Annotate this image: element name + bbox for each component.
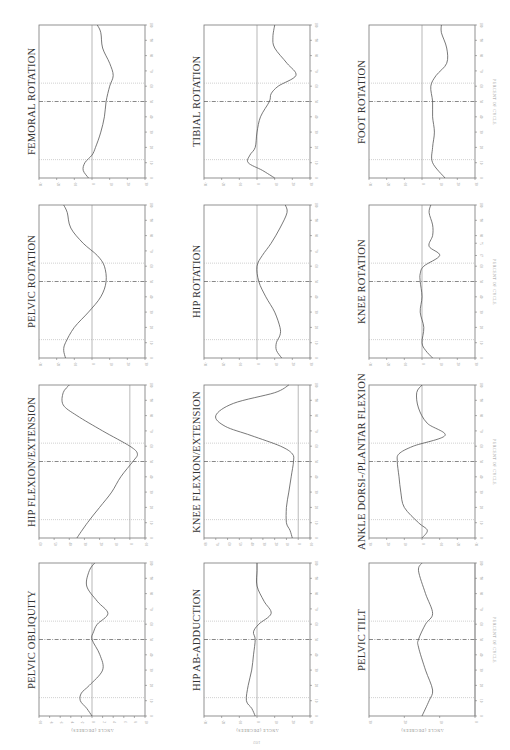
percent-tick-label: 50 bbox=[149, 100, 153, 104]
angle-tick-label: 10 bbox=[403, 542, 407, 546]
percent-tick-label: 10 bbox=[314, 521, 318, 525]
angle-tick-label: 0 bbox=[421, 183, 425, 185]
angle-tick-label: 0 bbox=[91, 183, 95, 185]
angle-tick-label: -20 bbox=[221, 720, 225, 725]
percent-tick-label: 30 bbox=[314, 131, 318, 135]
percent-tick-label: 100 bbox=[314, 383, 318, 388]
angle-tick-label: 70 bbox=[215, 542, 219, 546]
percent-tick-label: 20 bbox=[479, 684, 483, 688]
percent-tick-label: 90 bbox=[149, 219, 153, 223]
percent-tick-label: 100 bbox=[149, 561, 153, 566]
chart-hip-flexion-extension: 6050403020100-100102030405060708090100 bbox=[39, 385, 145, 538]
angle-tick-label: 4 bbox=[112, 721, 116, 723]
angle-tick-label: -10 bbox=[309, 542, 313, 547]
percent-tick-label: 0 bbox=[314, 357, 318, 359]
percent-tick-label: 50 bbox=[149, 460, 153, 464]
angle-tick-label: 60 bbox=[227, 542, 231, 546]
page-number: 102 bbox=[253, 740, 261, 745]
chart-title: KNEE ROTATION bbox=[356, 239, 367, 324]
angle-tick-label: -20 bbox=[56, 362, 60, 367]
percent-tick-label: 60 bbox=[479, 85, 483, 89]
angle-tick-label: 20 bbox=[386, 542, 390, 546]
angle-tick-label: 6 bbox=[123, 721, 127, 723]
percent-tick-label: 75 bbox=[479, 242, 483, 246]
chart-title: HIP FLEXION/EXTENSION bbox=[26, 396, 37, 526]
angle-tick-label: -10 bbox=[238, 720, 242, 725]
percent-tick-label: 50 bbox=[314, 460, 318, 464]
percent-tick-label: 70 bbox=[314, 607, 318, 611]
percent-tick-label: 80 bbox=[149, 54, 153, 58]
angle-tick-label: -6 bbox=[59, 721, 63, 724]
angle-tick-label: -10 bbox=[238, 362, 242, 367]
chart-title: ANKLE DORSI-/PLANTAR FLEXION bbox=[356, 373, 367, 550]
percent-tick-label: 80 bbox=[479, 592, 483, 596]
angle-tick-label: 0 bbox=[297, 543, 301, 545]
angle-tick-label: -10 bbox=[73, 182, 77, 187]
percent-tick-label: 60 bbox=[479, 445, 483, 449]
percent-tick-label: 90 bbox=[314, 219, 318, 223]
percent-tick-label: 70 bbox=[479, 69, 483, 73]
angle-tick-label: 20 bbox=[291, 362, 295, 366]
percent-axis-label: PERCENT OF CYCLE bbox=[492, 439, 497, 485]
chart-ankle-dorsi-plantar-flexion: 3020100-10-20-300102030405060708090100 bbox=[369, 385, 475, 538]
percent-tick-label: 60 bbox=[314, 445, 318, 449]
angle-tick-label: 20 bbox=[126, 362, 130, 366]
percent-tick-label: 0 bbox=[479, 177, 483, 179]
angle-tick-label: 20 bbox=[456, 362, 460, 366]
percent-tick-label: 10 bbox=[149, 341, 153, 345]
percent-tick-label: 20 bbox=[314, 326, 318, 330]
percent-tick-label: 67 bbox=[479, 254, 483, 258]
percent-tick-label: 10 bbox=[149, 161, 153, 165]
angle-tick-label: 10 bbox=[285, 542, 289, 546]
angle-tick-label: -10 bbox=[238, 182, 242, 187]
chart-title: HIP AB-ADDUCTION bbox=[191, 588, 202, 690]
angle-tick-label: -20 bbox=[221, 182, 225, 187]
percent-tick-label: 40 bbox=[479, 115, 483, 119]
percent-tick-label: 70 bbox=[314, 249, 318, 253]
percent-tick-label: 20 bbox=[479, 506, 483, 510]
angle-tick-label: 20 bbox=[403, 720, 407, 724]
chart-title: PELVIC ROTATION bbox=[26, 235, 37, 328]
angle-tick-label: 8 bbox=[133, 721, 137, 723]
percent-tick-label: 60 bbox=[479, 623, 483, 627]
percent-tick-label: 40 bbox=[479, 475, 483, 479]
angle-tick-label: -10 bbox=[38, 720, 42, 725]
chart-pelvic-rotation: -30-20-1001020300102030405060708090100 bbox=[39, 205, 145, 358]
plot-area: -30-20-1001020300102030405060708090100 bbox=[39, 25, 159, 192]
percent-tick-label: 90 bbox=[314, 399, 318, 403]
percent-tick-label: 90 bbox=[314, 39, 318, 43]
chart-knee-rotation: -30-20-100102030010203040506067758090100 bbox=[369, 205, 475, 358]
percent-tick-label: 80 bbox=[479, 54, 483, 58]
percent-tick-label: 40 bbox=[149, 295, 153, 299]
percent-tick-label: 20 bbox=[149, 326, 153, 330]
percent-tick-label: 90 bbox=[479, 399, 483, 403]
percent-tick-label: 60 bbox=[314, 265, 318, 269]
angle-tick-label: 0 bbox=[474, 721, 478, 723]
percent-tick-label: 10 bbox=[479, 341, 483, 345]
angle-tick-label: 30 bbox=[309, 362, 313, 366]
angle-tick-label: 0 bbox=[256, 363, 260, 365]
angle-tick-label: 20 bbox=[456, 182, 460, 186]
angle-tick-label: 10 bbox=[109, 182, 113, 186]
percent-tick-label: 40 bbox=[314, 653, 318, 657]
percent-tick-label: 40 bbox=[479, 653, 483, 657]
percent-tick-label: 90 bbox=[314, 577, 318, 581]
chart-title: FEMORAL ROTATION bbox=[26, 48, 37, 155]
angle-tick-label: 0 bbox=[129, 543, 133, 545]
percent-tick-label: 90 bbox=[479, 39, 483, 43]
percent-tick-label: 0 bbox=[314, 177, 318, 179]
percent-tick-label: 80 bbox=[314, 234, 318, 238]
percent-tick-label: 30 bbox=[149, 491, 153, 495]
angle-tick-label: 30 bbox=[474, 182, 478, 186]
angle-tick-label: 10 bbox=[109, 362, 113, 366]
percent-tick-label: 50 bbox=[479, 460, 483, 464]
percent-tick-label: 100 bbox=[314, 23, 318, 28]
angle-axis-label: ANGLE (DEGREES) bbox=[236, 728, 279, 733]
percent-tick-label: 30 bbox=[149, 131, 153, 135]
angle-tick-label: -30 bbox=[368, 182, 372, 187]
percent-tick-label: 20 bbox=[149, 506, 153, 510]
angle-tick-label: -20 bbox=[386, 182, 390, 187]
percent-tick-label: 80 bbox=[314, 54, 318, 58]
percent-tick-label: 10 bbox=[314, 161, 318, 165]
percent-tick-label: 70 bbox=[149, 429, 153, 433]
